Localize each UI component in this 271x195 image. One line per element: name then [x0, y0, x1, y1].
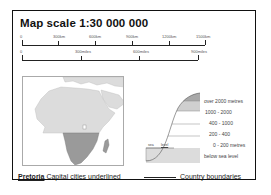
country-boundaries-text: Country boundaries — [180, 173, 241, 180]
africa-map-graphic — [23, 77, 124, 166]
legend-400-1000: 400 - 1000 — [209, 120, 233, 126]
km-label-300: 300km — [53, 34, 65, 39]
miles-label-900: 900miles — [191, 49, 207, 54]
miles-tick — [81, 56, 82, 60]
km-label-1500: 1500km — [196, 34, 210, 39]
km-tick — [22, 40, 23, 45]
capital-example: Pretoria — [18, 173, 44, 180]
miles-label-0: 0 — [20, 49, 22, 54]
legend-below-sea-level: below sea level — [204, 153, 238, 159]
miles-label-300: 300miles — [75, 49, 91, 54]
level-label: level — [161, 143, 168, 147]
africa-locator-map — [22, 76, 124, 166]
boundary-line-sample — [144, 177, 176, 178]
legend-1000-2000: 1000 - 2000 — [205, 109, 232, 115]
miles-label-600: 600miles — [133, 49, 149, 54]
legend-over-2000: over 2000 metres — [204, 98, 243, 104]
km-tick — [169, 41, 170, 45]
km-tick — [132, 41, 133, 45]
legend-200-400: 200 - 400 — [209, 131, 230, 137]
km-label-1200: 1200km — [162, 34, 176, 39]
elevation-profile-graphic — [140, 88, 200, 163]
map-scale-title: Map scale 1:30 000 000 — [20, 17, 148, 29]
miles-tick — [22, 55, 23, 60]
miles-tick — [198, 55, 199, 60]
km-tick — [58, 41, 59, 45]
capital-cities-text: Capital cities underlined — [46, 173, 120, 180]
miles-tick — [139, 56, 140, 60]
km-label-600: 600km — [89, 34, 101, 39]
km-tick — [205, 40, 206, 45]
km-tick — [95, 41, 96, 45]
km-label-900: 900km — [126, 34, 138, 39]
km-label-0: 0 — [20, 34, 22, 39]
capital-cities-legend: Pretoria Capital cities underlined — [18, 173, 121, 180]
sea-label: sea — [148, 143, 154, 147]
legend-0-200: 0 - 200 metres — [213, 142, 245, 148]
miles-bar-line — [22, 60, 198, 61]
km-bar-line — [22, 45, 205, 46]
